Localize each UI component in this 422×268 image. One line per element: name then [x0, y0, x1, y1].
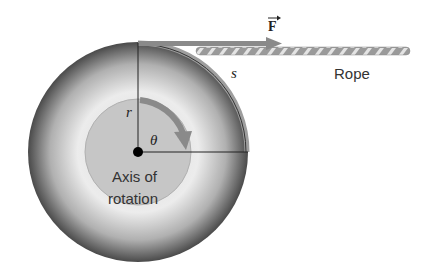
rope — [196, 47, 410, 55]
angle-label: θ — [150, 132, 158, 148]
rotation-diagram: F s r θ Rope Axis of rotation — [0, 0, 422, 268]
radius-label: r — [126, 104, 132, 120]
force-arrow — [138, 41, 268, 46]
rope-label: Rope — [334, 65, 370, 82]
force-label: F — [268, 19, 277, 34]
arc-label: s — [231, 65, 237, 81]
axis-label-line2: rotation — [108, 190, 158, 207]
axis-label-line1: Axis of — [112, 168, 158, 185]
axis-dot — [133, 147, 143, 157]
